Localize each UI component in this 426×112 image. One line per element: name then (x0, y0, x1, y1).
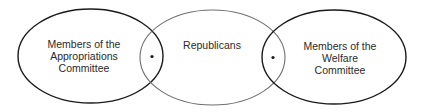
republicans-label: Republicans (162, 39, 262, 51)
welfare-label-line1: Members of the (290, 40, 390, 52)
welfare-label-line2: Welfare (290, 52, 390, 64)
appropriations-label: Members of the Appropriations Committee (34, 38, 134, 74)
appropriations-label-line2: Appropriations (34, 50, 134, 62)
welfare-label: Members of the Welfare Committee (290, 40, 390, 76)
appropriations-label-line3: Committee (34, 62, 134, 74)
appropriations-label-line1: Members of the (34, 38, 134, 50)
republicans-ellipse (140, 10, 285, 105)
welfare-label-line3: Committee (290, 64, 390, 76)
left-intersection-dot (150, 55, 153, 58)
right-intersection-dot (271, 56, 274, 59)
republicans-label-line1: Republicans (162, 39, 262, 51)
